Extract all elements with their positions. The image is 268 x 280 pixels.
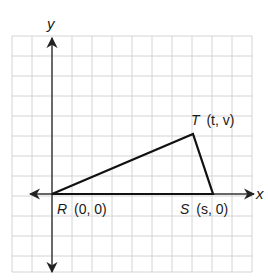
y-axis-label: y — [46, 15, 56, 32]
point-s-name: S — [180, 201, 190, 217]
point-t-name: T — [191, 112, 201, 128]
point-t-coords: (t, v) — [206, 112, 234, 128]
coordinate-plane: x y T (t, v) R (0, 0) S (s, 0) — [0, 0, 268, 280]
point-r-name: R — [57, 201, 67, 217]
point-r-label: R (0, 0) — [57, 201, 107, 217]
x-axis-label: x — [255, 185, 264, 202]
point-t-label: T (t, v) — [191, 112, 234, 128]
point-r-coords: (0, 0) — [74, 201, 107, 217]
grid — [12, 36, 252, 272]
point-s-label: S (s, 0) — [180, 201, 228, 217]
point-s-coords: (s, 0) — [196, 201, 228, 217]
